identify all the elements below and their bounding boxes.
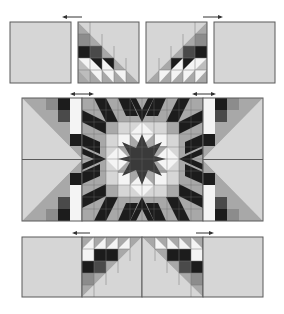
arrow-left-icon	[62, 15, 82, 19]
middle-row-graphic	[0, 90, 284, 230]
bottom-row-graphic	[0, 225, 284, 314]
middle-row	[0, 90, 284, 230]
bottom-row	[0, 225, 284, 314]
arrow-right-icon	[203, 15, 223, 19]
arrow-right-icon	[196, 231, 214, 235]
arrow-both-icon	[192, 92, 216, 96]
top-row-graphic	[0, 0, 284, 90]
top-row	[0, 0, 284, 90]
center-star-block	[82, 98, 203, 221]
arrow-both-icon	[70, 92, 94, 96]
arrow-left-icon	[72, 231, 90, 235]
